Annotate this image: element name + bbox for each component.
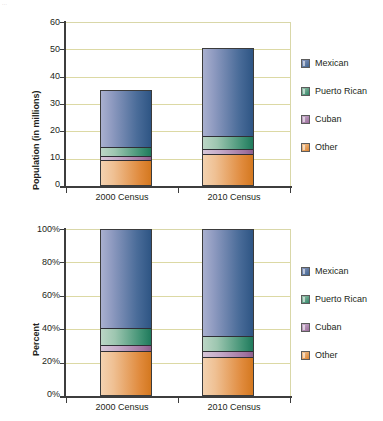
population-legend-item-cuban[interactable]: Cuban <box>301 114 342 124</box>
population-legend-label-cuban: Cuban <box>315 114 342 124</box>
population-chart-ytick-40: 40 <box>38 71 60 81</box>
percent-ytickmark-60 <box>60 296 64 297</box>
legend-swatch-cuban-icon <box>301 323 310 332</box>
population-chart-ytick-30: 30 <box>38 98 60 108</box>
population-chart-legend: Mexican Puerto Rican Cuban Other <box>301 58 383 154</box>
population-gridline-50 <box>66 49 290 50</box>
population-bar-2010[interactable] <box>202 48 254 186</box>
population-gridline-60 <box>66 22 290 23</box>
population-chart-ytick-20: 20 <box>38 125 60 135</box>
population-legend-label-other: Other <box>315 142 338 152</box>
percent-chart-y-axis <box>64 228 66 398</box>
legend-swatch-other-icon <box>301 351 310 360</box>
percent-legend-item-puerto-rican[interactable]: Puerto Rican <box>301 294 367 304</box>
clipped-header-text: ... <box>2 0 7 6</box>
percent-ytickmark-100 <box>60 229 64 230</box>
percent-xaxis-separator-right <box>290 398 291 403</box>
percent-legend-item-mexican[interactable]: Mexican <box>301 266 349 276</box>
population-ytickmark-40 <box>60 77 64 78</box>
percent-xtick-2010: 2010 Census <box>178 402 290 412</box>
population-chart-ytick-0: 0 <box>38 179 60 189</box>
percent-chart-x-axis <box>60 396 292 398</box>
population-chart-plot-area <box>66 22 291 186</box>
population-ytickmark-20 <box>60 131 64 132</box>
population-legend-label-puerto-rican: Puerto Rican <box>315 86 367 96</box>
percent-bar-2010[interactable] <box>202 229 254 396</box>
percent-legend-label-cuban: Cuban <box>315 322 342 332</box>
population-bar-2010-segment-other <box>203 154 253 186</box>
population-legend-item-other[interactable]: Other <box>301 142 338 152</box>
percent-xtick-2000: 2000 Census <box>66 402 178 412</box>
population-chart-ytick-50: 50 <box>38 44 60 54</box>
population-chart-y-axis <box>64 21 66 188</box>
population-legend-item-puerto-rican[interactable]: Puerto Rican <box>301 86 367 96</box>
percent-chart-ytick-80: 80% <box>29 257 60 267</box>
population-ytickmark-30 <box>60 104 64 105</box>
population-xtick-2000: 2000 Census <box>66 192 178 202</box>
population-legend-label-mexican: Mexican <box>315 58 349 68</box>
population-chart-ytick-60: 60 <box>38 17 60 27</box>
percent-legend-label-puerto-rican: Puerto Rican <box>315 294 367 304</box>
percent-bar-2010-segment-puerto-rican <box>203 336 253 351</box>
legend-swatch-mexican-icon <box>301 267 310 276</box>
legend-swatch-mexican-icon <box>301 59 310 68</box>
percent-chart-plot-area <box>66 229 291 396</box>
percent-chart: Percent 100% 80% 60% 40% 20% 0% <box>0 212 383 421</box>
percent-bar-2010-segment-mexican <box>203 230 253 336</box>
percent-chart-ytick-100: 100% <box>29 224 60 234</box>
population-bar-2010-segment-mexican <box>203 49 253 136</box>
percent-legend-label-other: Other <box>315 350 338 360</box>
percent-legend-item-cuban[interactable]: Cuban <box>301 322 342 332</box>
legend-swatch-puerto-rican-icon <box>301 295 310 304</box>
population-bar-2000-segment-other <box>101 160 151 186</box>
percent-chart-ytick-20: 20% <box>29 356 60 366</box>
percent-bar-2010-segment-other <box>203 357 253 396</box>
legend-swatch-cuban-icon <box>301 115 310 124</box>
population-chart: Population (in millions) 60 50 40 30 20 … <box>0 10 383 210</box>
percent-ytickmark-20 <box>60 363 64 364</box>
percent-chart-ytick-0: 0% <box>29 389 60 399</box>
legend-swatch-puerto-rican-icon <box>301 87 310 96</box>
population-xtick-2010: 2010 Census <box>178 192 290 202</box>
population-bar-2000[interactable] <box>100 90 152 186</box>
percent-chart-ytick-40: 40% <box>29 323 60 333</box>
population-legend-item-mexican[interactable]: Mexican <box>301 58 349 68</box>
percent-ytickmark-40 <box>60 329 64 330</box>
population-bar-2000-segment-mexican <box>101 91 151 147</box>
percent-ytickmark-80 <box>60 262 64 263</box>
percent-bar-2000-segment-other <box>101 351 151 396</box>
population-chart-x-axis <box>60 186 292 188</box>
population-ytickmark-50 <box>60 49 64 50</box>
percent-chart-legend: Mexican Puerto Rican Cuban Other <box>301 266 383 362</box>
population-bar-2000-segment-puerto-rican <box>101 147 151 156</box>
percent-bar-2000[interactable] <box>100 229 152 396</box>
legend-swatch-other-icon <box>301 143 310 152</box>
population-ytickmark-60 <box>60 22 64 23</box>
population-bar-2010-segment-puerto-rican <box>203 136 253 149</box>
percent-bar-2000-segment-mexican <box>101 230 151 328</box>
population-ytickmark-10 <box>60 159 64 160</box>
percent-chart-ytick-60: 60% <box>29 290 60 300</box>
percent-bar-2000-segment-puerto-rican <box>101 328 151 345</box>
percent-legend-item-other[interactable]: Other <box>301 350 338 360</box>
percent-legend-label-mexican: Mexican <box>315 266 349 276</box>
population-xaxis-separator-right <box>290 188 291 193</box>
population-gridline-40 <box>66 77 290 78</box>
population-chart-ytick-10: 10 <box>38 152 60 162</box>
